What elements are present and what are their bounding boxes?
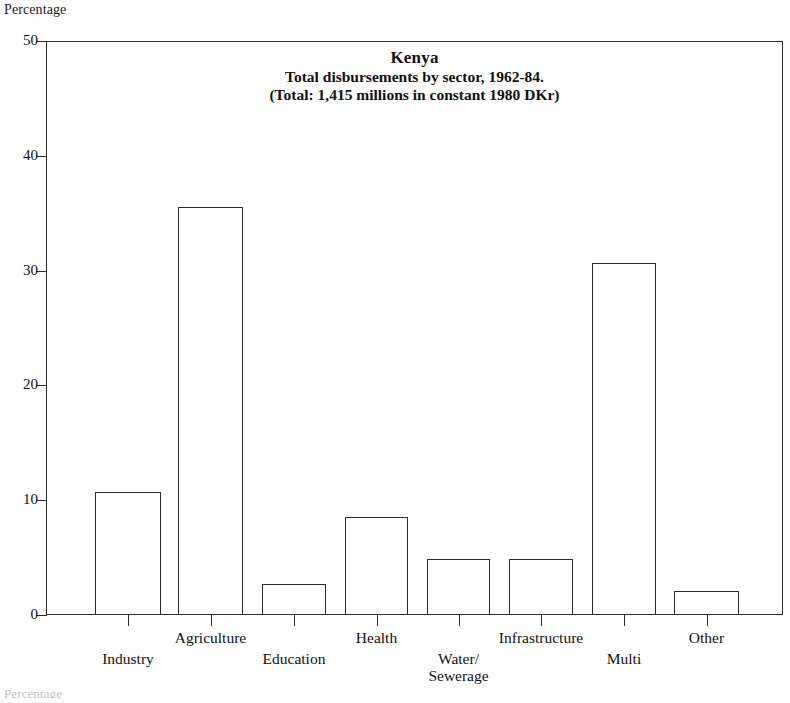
bar — [262, 584, 326, 615]
x-axis-tick — [624, 615, 625, 626]
y-axis-tick-label: 40 — [0, 148, 38, 163]
x-axis-tick — [707, 615, 708, 626]
bar — [674, 591, 739, 615]
y-axis-tick-label: 20 — [0, 377, 38, 392]
x-axis-tick-label: Agriculture — [131, 630, 291, 647]
y-axis-caption: Percentage — [4, 2, 66, 18]
bar — [95, 492, 161, 615]
y-axis-tick-label: 50 — [0, 33, 38, 48]
x-axis-tick — [128, 615, 129, 626]
x-axis-tick — [541, 615, 542, 626]
bar — [427, 559, 490, 615]
y-axis-tick-label: 0 — [0, 607, 38, 622]
x-axis-tick-label: Education — [214, 651, 374, 668]
y-axis-tick-label: 30 — [0, 263, 38, 278]
bottom-clipped-caption: Percentage — [4, 686, 62, 698]
chart-figure: Percentage Percentage 01020304050Industr… — [0, 0, 790, 703]
x-axis-tick-label: Other — [627, 630, 787, 647]
x-axis-tick — [294, 615, 295, 626]
x-axis-tick-label: Health — [297, 630, 457, 647]
y-axis-tick-label: 10 — [0, 492, 38, 507]
x-axis-tick — [377, 615, 378, 626]
x-axis-tick-label: Multi — [544, 651, 704, 668]
bar — [509, 559, 573, 615]
x-axis-tick — [211, 615, 212, 626]
x-axis-tick-label: Industry — [48, 651, 208, 668]
x-axis-tick-label: Infrastructure — [461, 630, 621, 647]
bar — [345, 517, 408, 615]
x-axis-tick — [459, 615, 460, 626]
x-axis-tick-label: Water/ Sewerage — [379, 651, 539, 684]
bar — [592, 263, 656, 615]
bar — [178, 207, 243, 615]
